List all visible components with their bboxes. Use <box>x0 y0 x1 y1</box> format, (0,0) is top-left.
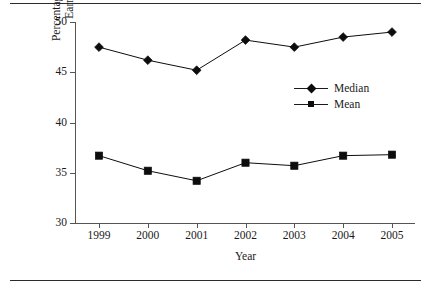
legend-item-median: Median <box>294 80 369 96</box>
x-tick-2002 <box>246 223 247 228</box>
y-tick-label-45: 45 <box>56 67 68 79</box>
y-tick-40 <box>70 123 75 124</box>
data-point-mean-2005 <box>388 151 395 158</box>
x-tick-2001 <box>197 223 198 228</box>
legend-label-median: Median <box>334 80 369 96</box>
data-series-layer <box>76 22 415 223</box>
data-point-mean-2004 <box>340 152 347 159</box>
y-axis-title: Percentage of Gross HourlyEarnings Measu… <box>50 0 76 62</box>
diamond-marker-icon <box>294 82 328 94</box>
x-tick-label-2003: 2003 <box>283 230 306 242</box>
x-tick-label-1999: 1999 <box>88 230 111 242</box>
legend-label-mean: Mean <box>334 96 360 112</box>
chart-legend: Median Mean <box>294 80 369 112</box>
data-point-median-2001 <box>192 66 201 75</box>
data-point-median-2005 <box>388 28 397 37</box>
x-tick-1999 <box>99 223 100 228</box>
y-axis-title-line-1: Percentage of Gross Hourly <box>50 0 63 62</box>
data-point-mean-1999 <box>95 152 102 159</box>
y-tick-35 <box>70 173 75 174</box>
chart-figure: 3035404550 1999200020012002200320042005 … <box>0 0 431 289</box>
series-line-mean <box>99 155 392 181</box>
x-tick-label-2000: 2000 <box>136 230 159 242</box>
x-tick-2003 <box>294 223 295 228</box>
data-point-median-2004 <box>339 33 348 42</box>
y-tick-45 <box>70 72 75 73</box>
data-point-mean-2001 <box>193 177 200 184</box>
y-tick-label-30: 30 <box>56 217 68 229</box>
data-point-median-2003 <box>290 43 299 52</box>
y-tick-label-35: 35 <box>56 167 68 179</box>
x-tick-label-2004: 2004 <box>332 230 355 242</box>
data-point-median-2000 <box>143 56 152 65</box>
data-point-median-2002 <box>241 36 250 45</box>
x-tick-label-2002: 2002 <box>234 230 257 242</box>
x-tick-label-2001: 2001 <box>185 230 208 242</box>
x-tick-2004 <box>343 223 344 228</box>
x-tick-2005 <box>392 223 393 228</box>
square-marker-icon <box>294 98 328 110</box>
x-tick-2000 <box>148 223 149 228</box>
x-axis-title: Year <box>76 250 415 262</box>
data-point-mean-2003 <box>291 162 298 169</box>
y-tick-30 <box>70 223 75 224</box>
plot-area: 3035404550 1999200020012002200320042005 … <box>76 22 415 223</box>
y-axis-title-line-2: Earnings Measure <box>63 0 76 62</box>
legend-item-mean: Mean <box>294 96 369 112</box>
data-point-median-1999 <box>95 43 104 52</box>
y-tick-label-40: 40 <box>56 117 68 129</box>
x-tick-label-2005: 2005 <box>381 230 404 242</box>
data-point-mean-2002 <box>242 159 249 166</box>
data-point-mean-2000 <box>144 167 151 174</box>
bottom-divider-rule <box>10 280 421 281</box>
